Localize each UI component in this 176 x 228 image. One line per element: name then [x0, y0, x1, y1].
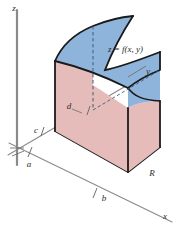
figure-root: z y x z = f(x, y) a b c d R: [0, 0, 176, 228]
tick-label-a: a: [27, 159, 32, 169]
tick-b: [93, 188, 97, 198]
tick-label-b: b: [102, 193, 107, 203]
tick-label-d: d: [67, 101, 72, 111]
volume-under-surface-diagram: z y x z = f(x, y) a b c d R: [0, 0, 176, 228]
z-axis-label: z: [11, 3, 16, 13]
surface-equation-label: z = f(x, y): [107, 44, 143, 54]
region-label-R: R: [148, 168, 155, 178]
tick-label-c: c: [34, 125, 38, 135]
x-axis-label: x: [162, 211, 167, 221]
front-right-face-pink-fill: [128, 101, 160, 172]
y-axis-label: y: [145, 66, 150, 76]
